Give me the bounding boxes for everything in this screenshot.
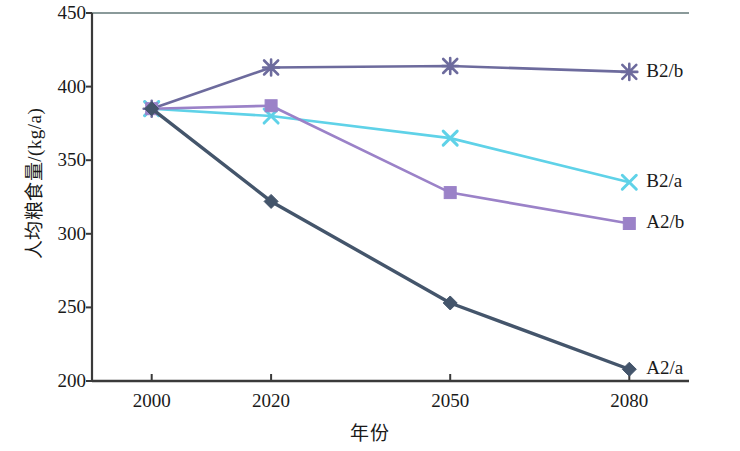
series-A2-a — [145, 102, 637, 377]
chart-figure: 人均粮食量/(kg/a) 年份 200250300350400450 20002… — [0, 0, 740, 451]
data-point-marker — [623, 217, 635, 229]
data-point-marker — [622, 362, 636, 376]
series-line — [152, 66, 630, 109]
series-label-B2-b: B2/b — [646, 60, 683, 82]
data-point-marker — [263, 59, 279, 75]
series-label-A2-b: A2/b — [646, 211, 684, 233]
series-line — [152, 109, 630, 370]
data-point-marker — [443, 296, 457, 310]
series-line — [152, 109, 630, 183]
series-label-B2-a: B2/a — [646, 170, 682, 192]
axis-frame — [86, 13, 689, 381]
series-label-A2-a: A2/a — [646, 357, 683, 379]
data-point-marker — [442, 58, 458, 74]
plot-area — [0, 0, 740, 451]
data-point-marker — [444, 187, 456, 199]
series-B2-a — [145, 102, 637, 190]
data-series-layer — [144, 58, 638, 376]
data-point-marker — [265, 100, 277, 112]
data-point-marker — [621, 64, 637, 80]
